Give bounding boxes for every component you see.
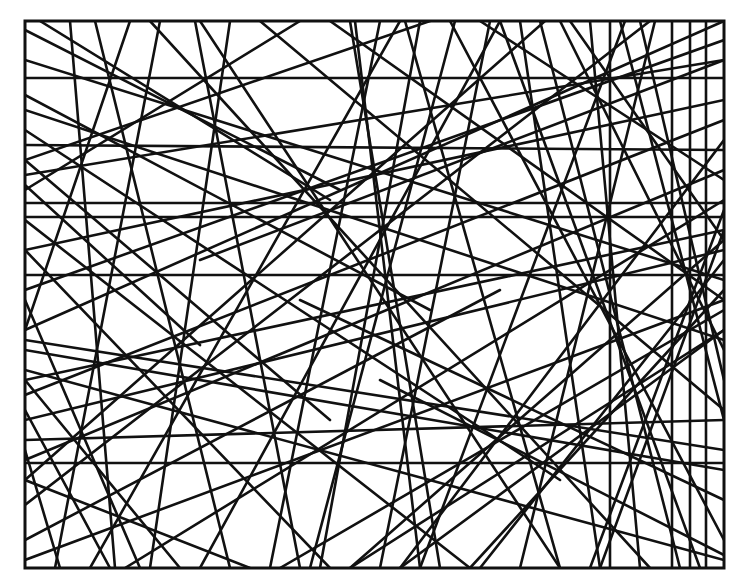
random-lines-diagram [0, 0, 745, 588]
random-lines-figure [0, 0, 745, 588]
